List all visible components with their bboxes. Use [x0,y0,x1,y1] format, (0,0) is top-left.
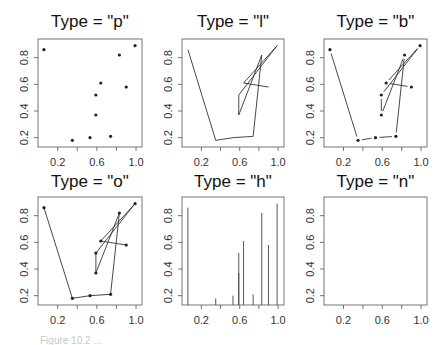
y-tick-label: 0.4 [18,261,30,276]
data-point [385,81,388,84]
panel-title: Type = "h" [194,172,272,191]
data-point [94,93,97,96]
series-segment [362,138,372,139]
y-tick-label: 0.4 [162,261,174,276]
data-point [133,44,136,47]
series-segment [379,137,391,138]
panel-p: Type = "p"0.20.61.00.20.40.60.8 [18,12,144,168]
x-tick-label: 0.2 [50,314,65,326]
y-tick-label: 0.6 [162,235,174,250]
data-point [88,294,91,297]
data-point [118,53,121,56]
data-point [88,136,91,139]
series-segment [331,53,357,136]
y-tick-label: 0.2 [18,130,30,145]
series-segment [389,49,418,80]
y-tick-label: 0.8 [304,50,316,65]
data-point [94,271,97,274]
x-tick-label: 0.6 [375,314,390,326]
x-tick-label: 0.6 [232,156,247,168]
panel-o: Type = "o"0.20.61.00.20.40.60.8 [18,172,144,326]
data-point [94,251,97,254]
x-tick-label: 1.0 [270,156,285,168]
x-tick-label: 0.6 [232,314,247,326]
panel-title: Type = "b" [337,12,415,31]
series-line [44,204,135,299]
data-point [71,297,74,300]
x-tick-label: 0.2 [194,156,209,168]
y-tick-label: 0.6 [304,235,316,250]
y-tick-label: 0.4 [18,103,30,118]
panel-title: Type = "l" [197,12,269,31]
y-tick-label: 0.2 [304,288,316,303]
x-tick-label: 1.0 [128,156,143,168]
data-point [118,211,121,214]
data-point [374,136,377,139]
data-point [109,293,112,296]
figure-caption: Figure 10.2 ... [40,335,102,345]
y-tick-label: 0.2 [18,288,30,303]
panel-title: Type = "n" [337,172,415,191]
y-tick-label: 0.2 [162,288,174,303]
plot-types-figure: Type = "p"0.20.61.00.20.40.60.8Type = "l… [0,0,442,345]
data-point [71,139,74,142]
x-tick-label: 1.0 [413,314,428,326]
data-point [403,53,406,56]
y-tick-label: 0.8 [162,50,174,65]
panel-l: Type = "l"0.20.61.00.20.40.60.8 [162,12,286,168]
y-tick-label: 0.4 [304,103,316,118]
data-point [394,135,397,138]
plot-frame [324,197,427,305]
plot-frame [38,39,142,147]
series-line [188,46,277,141]
data-point [99,81,102,84]
data-point [99,239,102,242]
data-point [410,85,413,88]
y-tick-label: 0.8 [162,208,174,223]
data-point [109,135,112,138]
y-tick-label: 0.6 [304,77,316,92]
data-point [133,202,136,205]
x-tick-label: 0.2 [336,156,351,168]
y-tick-label: 0.4 [304,261,316,276]
data-point [125,85,128,88]
data-point [356,139,359,142]
x-tick-label: 0.6 [89,156,104,168]
data-point [42,206,45,209]
y-tick-label: 0.6 [162,77,174,92]
y-tick-label: 0.6 [18,77,30,92]
x-tick-label: 0.2 [50,156,65,168]
x-tick-label: 0.2 [194,314,209,326]
data-point [125,243,128,246]
x-tick-label: 1.0 [128,314,143,326]
y-tick-label: 0.4 [162,103,174,118]
y-tick-label: 0.2 [304,130,316,145]
panel-n: Type = "n"0.20.61.00.20.40.60.8 [304,172,429,326]
data-point [328,48,331,51]
panel-title: Type = "o" [51,172,129,191]
data-point [418,44,421,47]
data-point [380,93,383,96]
y-tick-label: 0.2 [162,130,174,145]
y-tick-label: 0.8 [304,208,316,223]
data-point [380,113,383,116]
x-tick-label: 1.0 [413,156,428,168]
y-tick-label: 0.6 [18,235,30,250]
data-point [42,48,45,51]
panel-h: Type = "h"0.20.61.00.20.40.60.8 [162,172,286,326]
y-tick-label: 0.8 [18,50,30,65]
x-tick-label: 0.6 [89,314,104,326]
panel-title: Type = "p" [51,12,129,31]
x-tick-label: 0.2 [336,314,351,326]
panel-b: Type = "b"0.20.61.00.20.40.60.8 [304,12,429,168]
y-tick-label: 0.8 [18,208,30,223]
x-tick-label: 1.0 [270,314,285,326]
data-point [94,113,97,116]
x-tick-label: 0.6 [375,156,390,168]
